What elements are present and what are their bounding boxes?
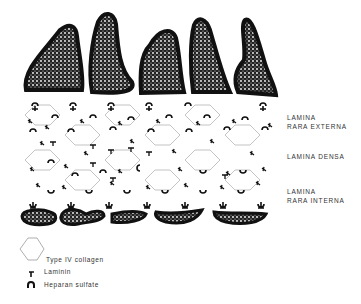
endothelial-cells [22,209,266,224]
legend-label-laminin: Laminin [44,268,71,275]
label-lamina-densa: LAMINA DENSA [287,152,345,161]
heparan-sulfate-icon [28,282,34,288]
laminin-icon [29,272,34,277]
legend-label-collagen: Type IV collagen [46,256,104,263]
label-lamina-rara-interna: LAMINA RARA INTERNA [287,187,345,205]
layer-label-line: LAMINA DENSA [287,152,345,161]
foot-processes [26,14,276,95]
layer-label-line: RARA INTERNA [287,196,345,205]
label-lamina-rara-externa: LAMINA RARA EXTERNA [287,113,347,131]
hexagon-icon [20,238,44,260]
layer-label-line: LAMINA [287,113,347,122]
layer-label-line: LAMINA [287,187,345,196]
layer-label-line: RARA EXTERNA [287,122,347,131]
legend-label-heparan: Heparan sulfate [44,281,99,288]
